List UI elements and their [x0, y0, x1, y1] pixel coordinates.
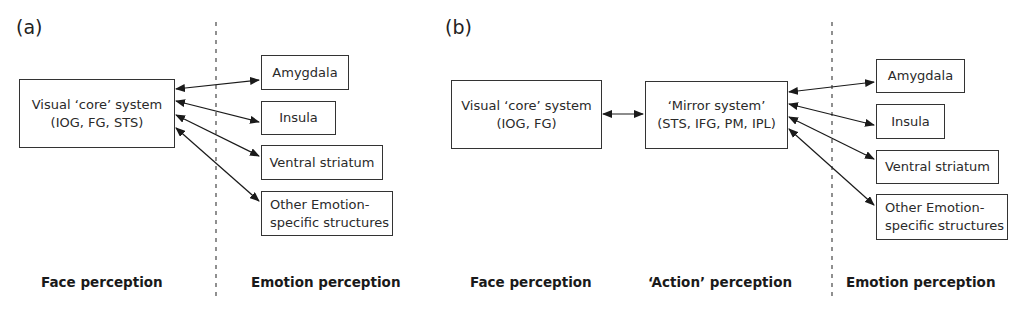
box-b-mirror-line2: (STS, IFG, PM, IPL) [657, 115, 776, 133]
box-b-mirror-line1: ‘Mirror system’ [668, 97, 766, 115]
arrow-b-amygdala [789, 82, 874, 92]
box-a-visual-core-system: Visual ‘core’ system (IOG, FG, STS) [19, 79, 175, 148]
box-b-insula-label: Insula [891, 113, 930, 131]
footer-b-face-perception: Face perception [470, 274, 592, 290]
box-b-amygdala-label: Amygdala [888, 67, 953, 85]
box-b-other-line1: Other Emotion- [885, 199, 984, 217]
box-b-mirror-system: ‘Mirror system’ (STS, IFG, PM, IPL) [645, 81, 788, 149]
footer-b-action-perception: ‘Action’ perception [648, 274, 792, 290]
box-a-amygdala: Amygdala [261, 55, 349, 90]
footer-a-emotion-perception: Emotion perception [251, 274, 401, 290]
panel-label-a: (a) [16, 17, 42, 37]
box-a-other-emotion-structures: Other Emotion- specific structures [261, 191, 393, 236]
arrow-a-ventral-striatum [176, 115, 259, 156]
box-a-insula-label: Insula [279, 109, 318, 127]
box-b-insula: Insula [876, 104, 945, 139]
box-a-insula: Insula [261, 101, 336, 135]
footer-a-face-perception: Face perception [41, 274, 163, 290]
box-a-other-line1: Other Emotion- [270, 196, 369, 214]
box-a-core-line2: (IOG, FG, STS) [51, 114, 144, 132]
box-b-core-line2: (IOG, FG) [496, 115, 556, 133]
box-a-ventral-striatum: Ventral striatum [261, 145, 383, 180]
box-b-visual-core-system: Visual ‘core’ system (IOG, FG) [451, 80, 602, 149]
box-a-core-line1: Visual ‘core’ system [32, 96, 163, 114]
panel-label-b: (b) [445, 17, 472, 37]
footer-b-emotion-perception: Emotion perception [846, 274, 996, 290]
box-a-amygdala-label: Amygdala [272, 64, 337, 82]
box-b-ventral-striatum-label: Ventral striatum [885, 158, 990, 176]
box-b-core-line1: Visual ‘core’ system [461, 97, 592, 115]
arrow-a-amygdala [176, 80, 259, 89]
box-a-ventral-striatum-label: Ventral striatum [269, 154, 374, 172]
diagram-connectors [0, 0, 1025, 311]
box-b-ventral-striatum: Ventral striatum [876, 150, 999, 184]
box-b-amygdala: Amygdala [876, 59, 965, 93]
arrow-a-other [176, 128, 259, 201]
box-b-other-line2: specific structures [885, 217, 1004, 235]
arrow-a-insula [176, 101, 259, 122]
box-b-other-emotion-structures: Other Emotion- specific structures [876, 194, 1008, 240]
box-a-other-line2: specific structures [270, 214, 389, 232]
